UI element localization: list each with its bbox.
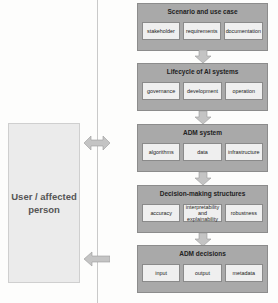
item-data: data: [183, 143, 221, 161]
stage-scenario-and-use-case: Scenario and use case stakeholder requir…: [137, 3, 268, 51]
stage-adm-decisions: ADM decisions input output metadata: [137, 245, 268, 293]
stage-title: ADM decisions: [138, 250, 267, 257]
item-stakeholder: stakeholder: [142, 22, 180, 40]
item-input: input: [142, 264, 180, 282]
stage-decision-making-structures: Decision-making structures accuracy inte…: [137, 185, 268, 233]
item-accuracy: accuracy: [142, 204, 180, 222]
left-arrow-icon: [84, 251, 110, 267]
stage-items: accuracy interpretability and explainabi…: [142, 204, 263, 222]
stage-title: Lifecycle of AI systems: [138, 68, 267, 75]
down-arrow-icon: [194, 50, 212, 63]
user-affected-person-label: User / affected person: [9, 190, 79, 216]
stage-items: algorithms data infrastructure: [142, 143, 263, 161]
item-metadata: metadata: [225, 264, 263, 282]
stage-title: Decision-making structures: [138, 190, 267, 197]
down-arrow-icon: [194, 172, 212, 185]
item-operation: operation: [225, 82, 263, 100]
item-governance: governance: [142, 82, 180, 100]
stage-title: Scenario and use case: [138, 8, 267, 15]
down-arrow-icon: [194, 111, 212, 124]
item-algorithms: algorithms: [142, 143, 180, 161]
item-interpretability-and-explainability: interpretability and explainability: [183, 204, 221, 222]
stage-lifecycle-of-ai-systems: Lifecycle of AI systems governance devel…: [137, 63, 268, 111]
stage-items: governance development operation: [142, 82, 263, 100]
item-infrastructure: infrastructure: [225, 143, 263, 161]
stage-items: stakeholder requirements documentation: [142, 22, 263, 40]
stage-adm-system: ADM system algorithms data infrastructur…: [137, 124, 268, 172]
stage-items: input output metadata: [142, 264, 263, 282]
item-development: development: [183, 82, 221, 100]
stage-title: ADM system: [138, 129, 267, 136]
double-arrow-icon: [84, 135, 110, 151]
item-documentation: documentation: [224, 22, 263, 40]
item-robustness: robustness: [225, 204, 263, 222]
item-output: output: [183, 264, 221, 282]
user-affected-person-box: User / affected person: [8, 123, 80, 283]
item-requirements: requirements: [183, 22, 221, 40]
